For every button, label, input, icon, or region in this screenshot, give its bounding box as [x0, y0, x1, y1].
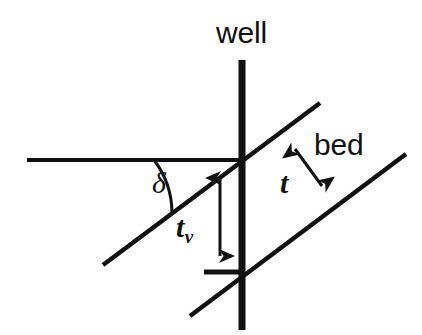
vertical-thickness-subscript: v [185, 226, 193, 247]
dip-angle-label: δ [152, 168, 166, 198]
true-thickness-label: t [280, 168, 288, 198]
bed-label: bed [314, 130, 363, 160]
diagram-canvas [0, 0, 422, 335]
vertical-thickness-label: tv [176, 212, 193, 246]
bed-thickness-diagram: well bed δ t tv [0, 0, 422, 335]
vertical-thickness-symbol: t [176, 210, 184, 243]
well-label: well [216, 18, 267, 48]
